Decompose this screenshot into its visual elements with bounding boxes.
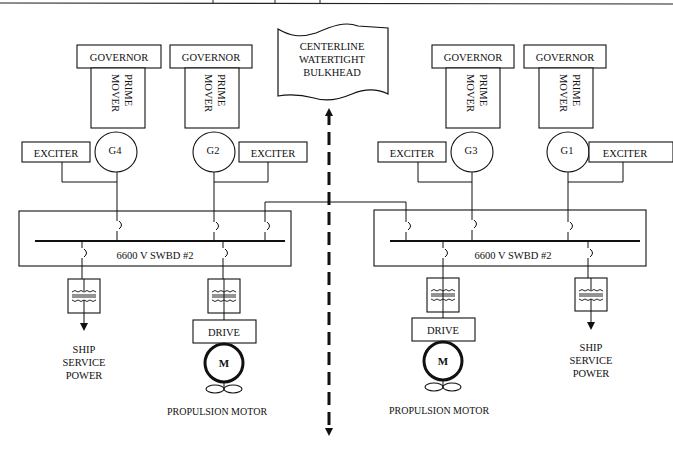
centerline-bulkhead: CENTERLINE WATERTIGHT BULKHEAD <box>278 24 388 432</box>
breaker-g2 <box>214 218 219 241</box>
ship-service-label-2: SERVICE <box>63 357 106 368</box>
ship-service-label-1: SHIP <box>73 344 96 355</box>
motor-symbol: M <box>438 355 449 367</box>
breaker-propulsion-right <box>443 241 448 278</box>
generator-id: G1 <box>561 145 574 156</box>
generator-id: G4 <box>109 145 123 156</box>
exciter-label: EXCITER <box>603 148 647 159</box>
exciter-label: EXCITER <box>251 148 295 159</box>
exciter-label: EXCITER <box>390 148 434 159</box>
ship-service-right: SHIP SERVICE POWER <box>570 278 613 379</box>
propeller-icon <box>206 385 224 393</box>
prime-mover-label-1: PRIME <box>216 74 227 106</box>
generator-set-g1: GOVERNOR PRIME MOVER G1 EXCITER <box>524 45 673 218</box>
breaker-g3 <box>472 218 477 241</box>
bulkhead-label-2: WATERTIGHT <box>299 54 365 65</box>
bulkhead-label-1: CENTERLINE <box>300 41 365 52</box>
bulkhead-label-3: BULKHEAD <box>303 67 361 78</box>
governor-label: GOVERNOR <box>444 52 502 63</box>
page-header-rule <box>0 0 673 4</box>
generator-id: G3 <box>465 145 478 156</box>
governor-label: GOVERNOR <box>536 52 594 63</box>
generator-id: G2 <box>207 145 220 156</box>
ship-service-left: SHIP SERVICE POWER <box>63 279 106 381</box>
propulsion-motor-label: PROPULSION MOTOR <box>389 405 489 416</box>
prime-mover-label-2: MOVER <box>558 74 569 112</box>
breaker-propulsion-left <box>223 241 228 280</box>
breaker-ship-service-left <box>82 241 87 280</box>
prime-mover-label-2: MOVER <box>110 74 121 112</box>
propeller-icon <box>425 383 443 391</box>
breaker-g1 <box>568 218 573 241</box>
prime-mover-label-1: PRIME <box>478 74 489 106</box>
power-system-diagram: CENTERLINE WATERTIGHT BULKHEAD GOVERNOR … <box>0 0 673 459</box>
motor-symbol: M <box>219 357 230 369</box>
propulsion-left: DRIVE M PROPULSION MOTOR <box>167 279 267 417</box>
prime-mover-label-1: PRIME <box>571 74 582 106</box>
ship-service-label-3: POWER <box>573 368 610 379</box>
switchboard-label: 6600 V SWBD #2 <box>475 250 552 261</box>
breaker-bus-tie-right <box>406 218 411 241</box>
breaker-g4 <box>117 218 122 241</box>
switchboard-label: 6600 V SWBD #2 <box>117 250 194 261</box>
propulsion-right: DRIVE M PROPULSION MOTOR <box>389 278 489 416</box>
prime-mover-label-1: PRIME <box>123 74 134 106</box>
ship-service-label-3: POWER <box>66 370 103 381</box>
switchboard-right: 6600 V SWBD #2 <box>374 210 646 278</box>
breaker-bus-tie-left <box>265 218 270 241</box>
generator-set-g3: GOVERNOR PRIME MOVER G3 EXCITER <box>378 45 514 218</box>
ship-service-label-2: SERVICE <box>570 355 613 366</box>
drive-label: DRIVE <box>427 325 459 336</box>
prime-mover-label-2: MOVER <box>203 74 214 112</box>
breaker-ship-service-right <box>588 241 593 278</box>
switchboard-left: 6600 V SWBD #2 <box>19 211 291 280</box>
exciter-label: EXCITER <box>34 148 78 159</box>
governor-label: GOVERNOR <box>90 52 148 63</box>
generator-set-g4: GOVERNOR PRIME MOVER G4 EXCITER <box>22 45 161 218</box>
prime-mover-label-2: MOVER <box>465 74 476 112</box>
propulsion-motor-label: PROPULSION MOTOR <box>167 406 267 417</box>
drive-label: DRIVE <box>208 327 240 338</box>
governor-label: GOVERNOR <box>182 52 240 63</box>
ship-service-label-1: SHIP <box>580 342 603 353</box>
